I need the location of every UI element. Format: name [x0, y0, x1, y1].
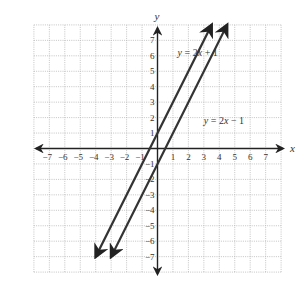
- y-tick-label: −5: [145, 221, 155, 231]
- y-tick-label: −1: [145, 159, 155, 169]
- y-axis-label: y: [154, 10, 160, 22]
- y-tick-label: −4: [145, 205, 155, 215]
- y-tick-label: 2: [150, 113, 155, 123]
- x-tick-label: 3: [202, 152, 207, 162]
- x-axis-label: x: [289, 142, 295, 154]
- y-tick-label: 4: [150, 82, 155, 92]
- y-tick-label: 1: [150, 128, 155, 138]
- y-tick-label: −3: [145, 190, 155, 200]
- y-tick-label: 7: [150, 35, 155, 45]
- equation-label-2: y = 2x − 1: [203, 115, 244, 126]
- equation-label-1: y = 2x + 1: [177, 47, 218, 58]
- x-tick-label: 7: [263, 152, 268, 162]
- line-chart: xy−7−6−5−4−3−2−11234567−7−6−5−4−3−2−1123…: [0, 0, 306, 296]
- x-tick-label: 5: [233, 152, 238, 162]
- x-tick-label: −4: [89, 152, 99, 162]
- x-tick-label: −6: [58, 152, 68, 162]
- y-tick-label: 3: [150, 97, 155, 107]
- y-tick-label: 5: [150, 66, 155, 76]
- x-tick-label: −2: [120, 152, 130, 162]
- x-tick-label: 6: [248, 152, 253, 162]
- x-tick-label: −7: [43, 152, 53, 162]
- y-tick-label: −7: [145, 252, 155, 262]
- y-tick-label: −6: [145, 236, 155, 246]
- series-line-2: [111, 25, 227, 257]
- x-tick-label: 4: [217, 152, 222, 162]
- x-tick-label: 2: [186, 152, 191, 162]
- plot-lines: [96, 25, 227, 257]
- x-tick-label: 1: [171, 152, 176, 162]
- y-tick-label: 6: [150, 51, 155, 61]
- x-tick-label: −5: [73, 152, 83, 162]
- x-tick-label: −3: [104, 152, 114, 162]
